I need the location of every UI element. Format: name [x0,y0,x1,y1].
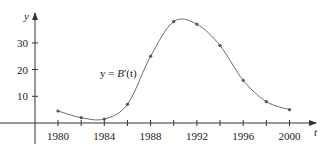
data-point [242,79,245,82]
data-points [56,20,291,121]
x-tick-label: 1980 [47,130,70,142]
data-point [195,23,198,26]
data-point [56,109,59,112]
y-tick-label: 20 [17,64,29,76]
data-curve [58,19,289,120]
data-point [172,20,175,23]
axes [0,13,316,144]
data-point [265,100,268,103]
x-tick-label: 1996 [232,130,255,142]
y-tick-label: 30 [17,37,29,49]
data-point [103,117,106,120]
x-tick-label: 1992 [186,130,208,142]
data-point [149,55,152,58]
data-point [288,108,291,111]
y-tick-label: 10 [17,90,29,102]
curve-label: y = B′(t) [100,67,137,80]
chart: 198019841988199219962000 102030 t y y = … [0,0,330,156]
x-tick-label: 1984 [93,130,116,142]
x-axis-label: t [314,126,318,138]
data-point [218,44,221,47]
x-tick-label: 2000 [278,130,301,142]
data-point [80,116,83,119]
x-tick-label: 1988 [140,130,163,142]
data-point [126,103,129,106]
y-axis-label: y [23,10,29,22]
